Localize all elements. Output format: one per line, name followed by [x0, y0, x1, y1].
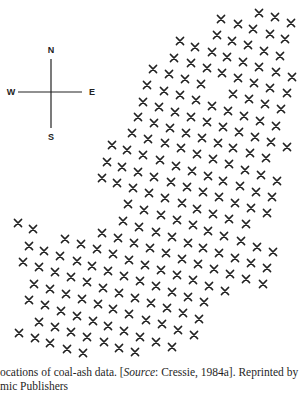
x-marker-icon	[63, 345, 70, 352]
x-marker-icon	[109, 305, 116, 312]
x-marker-icon	[214, 139, 221, 146]
compass-south-label: S	[48, 132, 54, 142]
x-marker-icon	[245, 95, 252, 102]
x-marker-icon	[168, 288, 175, 295]
x-marker-icon	[226, 270, 233, 277]
x-marker-icon	[178, 199, 185, 206]
x-marker-icon	[203, 64, 210, 71]
x-marker-icon	[205, 282, 212, 289]
x-marker-icon	[99, 284, 106, 291]
x-marker-icon	[239, 58, 246, 65]
x-marker-icon	[136, 277, 143, 284]
x-marker-icon	[272, 122, 279, 129]
x-marker-icon	[183, 183, 190, 190]
sample-location-markers	[14, 9, 295, 356]
x-marker-icon	[199, 244, 206, 251]
caption-suffix: : Cressie, 1984a]. Reprinted by	[155, 366, 298, 378]
x-marker-icon	[67, 273, 74, 280]
x-marker-icon	[98, 174, 105, 181]
x-marker-icon	[73, 312, 80, 319]
x-marker-icon	[83, 333, 90, 340]
x-marker-icon	[213, 31, 220, 38]
x-marker-icon	[242, 220, 249, 227]
x-marker-icon	[231, 199, 238, 206]
x-marker-icon	[134, 168, 141, 175]
x-marker-icon	[187, 113, 194, 120]
x-marker-icon	[189, 221, 196, 228]
x-marker-icon	[104, 267, 111, 274]
x-marker-icon	[225, 215, 232, 222]
x-marker-icon	[269, 248, 276, 255]
compass-rose: N S W E	[7, 45, 95, 142]
x-marker-icon	[240, 112, 247, 119]
x-marker-icon	[247, 259, 254, 266]
x-marker-icon	[192, 96, 199, 103]
x-marker-icon	[235, 128, 242, 135]
x-marker-icon	[221, 287, 228, 294]
x-marker-icon	[77, 240, 84, 247]
x-marker-icon	[215, 249, 222, 256]
x-marker-icon	[113, 179, 120, 186]
x-marker-icon	[88, 262, 95, 269]
x-marker-icon	[98, 229, 105, 236]
x-marker-icon	[193, 205, 200, 212]
x-marker-icon	[146, 244, 153, 251]
x-marker-icon	[128, 129, 135, 136]
x-marker-icon	[209, 210, 216, 217]
x-marker-icon	[15, 329, 22, 336]
x-marker-icon	[181, 75, 188, 82]
x-marker-icon	[119, 217, 126, 224]
x-marker-icon	[149, 65, 156, 72]
x-marker-icon	[263, 209, 270, 216]
x-marker-icon	[139, 98, 146, 105]
x-marker-icon	[266, 84, 273, 91]
caption-prefix: ocations of coal-ash data. [	[0, 366, 124, 378]
x-marker-icon	[234, 74, 241, 81]
x-marker-icon	[231, 254, 238, 261]
x-marker-icon	[193, 150, 200, 157]
x-marker-icon	[150, 173, 157, 180]
x-marker-icon	[225, 160, 232, 167]
x-marker-icon	[209, 155, 216, 162]
x-marker-icon	[272, 68, 279, 75]
x-marker-icon	[189, 276, 196, 283]
x-marker-icon	[219, 123, 226, 130]
x-marker-icon	[150, 119, 157, 126]
x-marker-icon	[124, 200, 131, 207]
x-marker-icon	[144, 135, 151, 142]
x-marker-icon	[177, 144, 184, 151]
x-marker-icon	[198, 134, 205, 141]
compass-west-label: W	[7, 87, 16, 97]
x-marker-icon	[203, 118, 210, 125]
x-marker-icon	[228, 37, 235, 44]
x-marker-icon	[93, 245, 100, 252]
x-marker-icon	[57, 307, 64, 314]
x-marker-icon	[204, 227, 211, 234]
x-marker-icon	[40, 247, 47, 254]
x-marker-icon	[220, 232, 227, 239]
caption-source-label: Source	[124, 366, 156, 378]
x-marker-icon	[234, 20, 241, 27]
x-marker-icon	[287, 19, 294, 26]
x-marker-icon	[89, 317, 96, 324]
x-marker-icon	[129, 184, 136, 191]
x-marker-icon	[51, 268, 58, 275]
x-marker-icon	[104, 322, 111, 329]
x-marker-icon	[46, 339, 53, 346]
x-marker-icon	[142, 316, 149, 323]
x-marker-icon	[263, 264, 270, 271]
x-marker-icon	[276, 52, 283, 59]
x-marker-icon	[168, 233, 175, 240]
x-marker-icon	[157, 211, 164, 218]
x-marker-icon	[241, 166, 248, 173]
x-marker-icon	[115, 289, 122, 296]
x-marker-icon	[253, 243, 260, 250]
x-marker-icon	[210, 265, 217, 272]
x-marker-icon	[167, 178, 174, 185]
x-marker-icon	[83, 278, 90, 285]
x-marker-icon	[219, 177, 226, 184]
x-marker-icon	[277, 105, 284, 112]
x-marker-icon	[78, 295, 85, 302]
x-marker-icon	[114, 234, 121, 241]
x-marker-icon	[35, 318, 42, 325]
